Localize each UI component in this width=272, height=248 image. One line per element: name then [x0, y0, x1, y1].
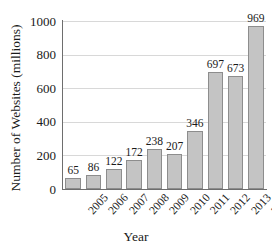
y-tick-label: 600 — [18, 82, 56, 95]
bar-value-label: 673 — [220, 63, 252, 75]
y-tick-label: 800 — [18, 48, 56, 61]
y-tick-label: 0 — [18, 183, 56, 196]
bar-value-label: 207 — [159, 141, 191, 153]
x-tick-label: 2012 — [229, 192, 253, 217]
gridline — [63, 21, 266, 22]
bar-chart: Number of Websites (millions) 0200400600… — [0, 0, 272, 248]
x-tick-label: 2007 — [127, 192, 151, 217]
bar — [248, 26, 264, 189]
bar — [228, 76, 244, 189]
x-tick-label: 2009 — [168, 192, 192, 217]
bar — [86, 175, 102, 189]
x-tick-label: 2010 — [188, 192, 212, 217]
x-tick-label: 2008 — [147, 192, 171, 217]
y-tick-label: 200 — [18, 149, 56, 162]
bar — [208, 72, 224, 189]
x-tick-label: 2005 — [86, 192, 110, 217]
x-tick-label: 2011 — [208, 192, 232, 216]
bar-value-label: 172 — [118, 147, 150, 159]
bar — [187, 131, 203, 189]
x-tick-label: 2006 — [107, 192, 131, 217]
x-axis-title: Year — [0, 229, 272, 245]
bar-value-label: 969 — [240, 13, 272, 25]
bar — [65, 178, 81, 189]
gridline — [63, 55, 266, 56]
y-axis-title: Number of Websites (millions) — [8, 20, 24, 196]
y-tick-label: 400 — [18, 115, 56, 128]
bar-value-label: 346 — [179, 118, 211, 130]
bar — [167, 154, 183, 189]
x-tick-label: 2013 — [249, 192, 272, 217]
y-tick-label: 1000 — [18, 15, 56, 28]
x-axis-line — [62, 189, 267, 190]
